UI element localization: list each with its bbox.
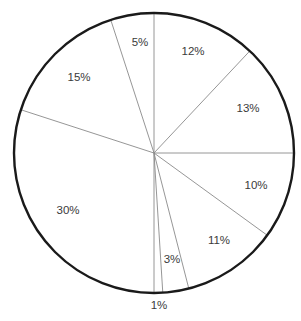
slice-label: 10% (244, 179, 267, 191)
slice-label: 30% (56, 204, 79, 216)
pie-chart: 12%13%10%11%3%1%30%15%5% (0, 0, 301, 321)
slice-label: 3% (164, 253, 181, 265)
slice-divider (154, 51, 250, 153)
slice-label: 13% (236, 102, 259, 114)
slice-divider (154, 153, 189, 289)
slice-label: 1% (151, 299, 168, 311)
slice-label: 5% (132, 36, 149, 48)
slice-divider (154, 153, 163, 293)
slice-label: 12% (181, 45, 204, 57)
slice-labels: 12%13%10%11%3%1%30%15%5% (56, 36, 267, 311)
slice-label: 15% (67, 71, 90, 83)
slice-divider (154, 153, 267, 235)
slice-label: 11% (208, 234, 230, 246)
slice-divider (21, 110, 154, 153)
